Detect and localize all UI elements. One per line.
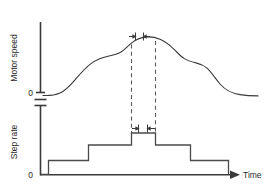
x-axis-arrowhead-icon [230,171,240,179]
motor-speed-curve-group [43,37,258,96]
y-axis-label-step-rate: Step rate [9,124,19,159]
axis-break-icon [35,100,47,106]
figure-canvas: Motor speed Step rate 0 0 Time [0,0,273,193]
x-axis-label-time: Time [243,170,262,180]
step-rate-staircase [41,133,229,174]
peak-dimension-marker-step [132,125,155,133]
motor-speed-step-rate-figure: Motor speed Step rate 0 0 Time [0,0,273,193]
motor-speed-curve [43,37,258,96]
origin-label-step-rate: 0 [28,170,33,180]
origin-label-motor-speed: 0 [28,88,33,98]
peak-dimension-marker-speed [129,33,150,41]
x-axis-time [41,171,241,179]
y-axis-label-motor-speed: Motor speed [9,34,19,82]
guide-lines-group [132,41,156,133]
y-axis-motor-speed [36,22,45,93]
step-rate-staircase-group [41,133,229,174]
